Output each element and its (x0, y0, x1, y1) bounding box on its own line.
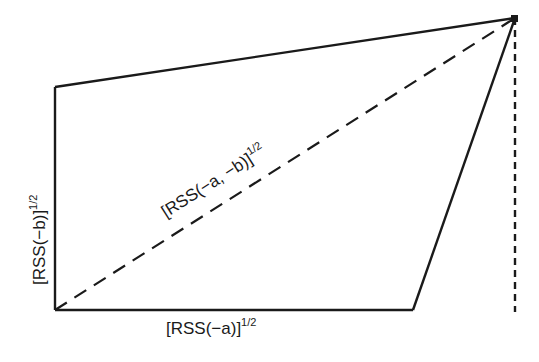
apex-point (511, 15, 518, 22)
x-axis-label-main: [RSS(−a)] (166, 319, 241, 338)
diagonal-label-main: [RSS(−a, −b)] (158, 150, 256, 222)
rss-vector-diagram: [RSS(−a)]1/2 [RSS(−b)]1/2 [RSS(−a, −b)]1… (0, 0, 539, 362)
y-axis-label-main: [RSS(−b)] (30, 210, 49, 285)
diagonal-dashed-line (55, 18, 515, 310)
y-axis-label-exponent: 1/2 (27, 195, 39, 210)
right-side-line (413, 18, 515, 310)
x-axis-label-exponent: 1/2 (241, 316, 256, 328)
top-side-line (55, 18, 515, 87)
y-axis-label: [RSS(−b)]1/2 (27, 195, 49, 285)
x-axis-label: [RSS(−a)]1/2 (166, 316, 256, 338)
